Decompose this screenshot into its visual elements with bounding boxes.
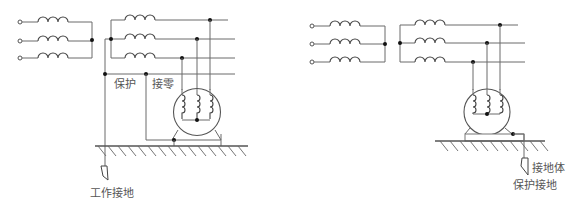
label-ground-body: 接地体 (532, 161, 565, 175)
coil-icon (330, 39, 360, 44)
junction-dot (195, 118, 199, 122)
ground-electrode-icon (101, 166, 108, 180)
terminal-icon (18, 20, 22, 24)
label-neutral: 接零 (152, 78, 174, 91)
terminal-icon (310, 42, 314, 46)
terminal-icon (18, 56, 22, 60)
label-protective-ground: 保护接地 (513, 178, 557, 192)
left-diagram: 保护 接零 工作接地 (18, 15, 248, 200)
junction-dot (90, 38, 94, 42)
terminal-icon (310, 24, 314, 28)
diagram-canvas: 保护 接零 工作接地 (0, 0, 576, 210)
coil-icon (38, 17, 68, 22)
junction-dot (109, 37, 113, 41)
coil-icon (330, 21, 360, 26)
terminal-icon (18, 39, 22, 43)
right-secondary-winding (398, 20, 525, 90)
terminal-icon (310, 60, 314, 64)
right-diagram: 接地体 保护接地 (310, 20, 565, 192)
coil-icon (415, 57, 445, 62)
junction-dot (383, 42, 387, 46)
right-motor (464, 89, 524, 141)
right-primary-winding (310, 21, 387, 64)
left-motor (172, 89, 221, 147)
coil-icon (330, 57, 360, 62)
motor-base (465, 134, 524, 141)
coil-icon (38, 53, 68, 58)
ground-electrode-icon (521, 158, 528, 175)
junction-dot (398, 41, 402, 45)
coil-icon (415, 38, 445, 43)
left-primary-winding (18, 17, 94, 60)
coil-icon (125, 15, 155, 20)
coil-icon (415, 20, 445, 25)
coil-icon (125, 53, 155, 58)
coil-icon (125, 34, 155, 39)
junction-dot (103, 72, 107, 76)
coil-icon (38, 36, 68, 41)
label-protect: 保护 (114, 77, 136, 91)
label-working-ground: 工作接地 (90, 187, 134, 200)
left-ground (95, 146, 248, 180)
junction-dot (485, 112, 489, 116)
